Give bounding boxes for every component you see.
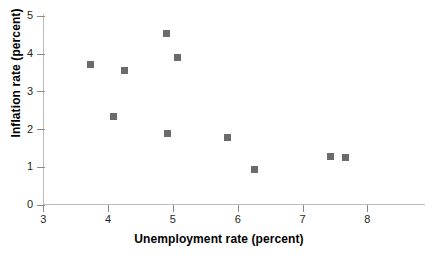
- x-tick-label: 7: [293, 214, 313, 225]
- data-point-marker: [121, 67, 128, 74]
- x-tick-label: 6: [228, 214, 248, 225]
- plot-area: 012345 345678 Inflation rate (percent) U…: [0, 0, 438, 256]
- y-tick-mark: [37, 16, 45, 17]
- x-tick-label: 3: [33, 214, 53, 225]
- x-tick-mark: [238, 205, 239, 212]
- data-point-marker: [163, 30, 170, 37]
- x-tick-mark: [108, 205, 109, 212]
- y-tick-mark: [37, 54, 45, 55]
- x-tick-label: 5: [163, 214, 183, 225]
- x-tick-mark: [367, 205, 368, 212]
- scatter-plot-figure: 012345 345678 Inflation rate (percent) U…: [0, 0, 438, 256]
- y-tick-label: 0: [19, 199, 33, 210]
- data-point-marker: [342, 154, 349, 161]
- x-tick-label: 8: [357, 214, 377, 225]
- y-axis-line: [43, 14, 44, 206]
- data-point-marker: [174, 54, 181, 61]
- data-point-marker: [87, 61, 94, 68]
- y-axis-title: Inflation rate (percent): [9, 0, 23, 168]
- y-tick-mark: [37, 129, 45, 130]
- data-point-marker: [224, 134, 231, 141]
- data-point-marker: [164, 130, 171, 137]
- data-point-marker: [110, 113, 117, 120]
- y-tick-mark: [37, 91, 45, 92]
- y-axis-title-container: Inflation rate (percent): [9, 0, 25, 168]
- x-tick-label: 4: [98, 214, 118, 225]
- data-point-marker: [251, 166, 258, 173]
- x-tick-mark: [43, 205, 44, 212]
- x-tick-mark: [173, 205, 174, 212]
- x-tick-mark: [303, 205, 304, 212]
- y-tick-mark: [37, 167, 45, 168]
- x-axis-title: Unemployment rate (percent): [0, 232, 438, 246]
- data-point-marker: [327, 153, 334, 160]
